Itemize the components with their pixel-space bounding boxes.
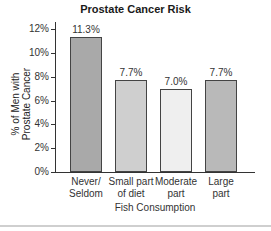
y-tick: [51, 172, 56, 173]
category-line: Small part: [108, 176, 154, 188]
bar-value-label: 7.7%: [109, 67, 153, 78]
y-tick-label: 0%: [20, 166, 49, 177]
y-tick: [51, 77, 56, 78]
category-line: Moderate: [153, 176, 199, 188]
y-tick: [51, 53, 56, 54]
y-axis: [55, 22, 56, 172]
bar-value-label: 7.7%: [199, 67, 243, 78]
category-label: Small part of diet: [108, 176, 154, 200]
y-tick-label: 4%: [20, 118, 49, 129]
y-tick: [51, 29, 56, 30]
y-tick-label: 12%: [20, 23, 49, 34]
y-tick-label: 10%: [20, 47, 49, 58]
category-label: Moderate part: [153, 176, 199, 200]
chart-title: Prostate Cancer Risk: [0, 3, 271, 15]
category-label: Large part: [198, 176, 244, 200]
bar: [205, 80, 237, 172]
y-tick: [51, 148, 56, 149]
y-tick-label: 8%: [20, 71, 49, 82]
category-line: of diet: [108, 188, 154, 200]
category-line: Never/: [63, 176, 109, 188]
category-line: Large: [198, 176, 244, 188]
category-line: Seldom: [63, 188, 109, 200]
y-tick: [51, 124, 56, 125]
bar: [160, 89, 192, 172]
category-line: part: [198, 188, 244, 200]
y-tick-label: 6%: [20, 95, 49, 106]
bar-value-label: 11.3%: [64, 24, 108, 35]
bottom-separator: [0, 225, 271, 227]
x-axis: [55, 172, 255, 173]
category-label: Never/ Seldom: [63, 176, 109, 200]
bar: [70, 37, 102, 172]
y-tick-label: 2%: [20, 142, 49, 153]
category-line: part: [153, 188, 199, 200]
y-tick: [51, 101, 56, 102]
bar: [115, 80, 147, 172]
x-axis-title: Fish Consumption: [55, 202, 255, 213]
bar-value-label: 7.0%: [154, 76, 198, 87]
